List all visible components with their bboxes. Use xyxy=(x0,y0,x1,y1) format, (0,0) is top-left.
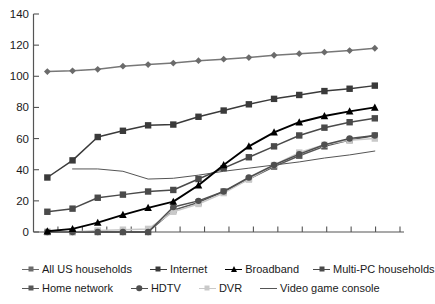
y-tick-label: 40 xyxy=(16,164,29,176)
data-point-marker xyxy=(296,132,302,138)
legend-marker-icon xyxy=(260,283,277,294)
data-point-marker xyxy=(246,154,252,160)
data-point-marker xyxy=(321,49,328,56)
legend-item-video-game-console[interactable]: Video game console xyxy=(260,280,379,296)
data-point-marker xyxy=(271,96,277,102)
data-point-marker xyxy=(95,134,101,140)
data-point-marker xyxy=(195,57,202,64)
legend-marker-icon xyxy=(131,283,148,294)
legend-marker-icon xyxy=(22,264,39,275)
data-point-marker xyxy=(69,205,75,211)
legend-label: Internet xyxy=(170,264,207,275)
data-point-marker xyxy=(95,229,101,235)
y-axis-tick-labels: 020406080100120140 xyxy=(10,8,29,238)
series-hdtv xyxy=(44,132,378,235)
data-point-marker xyxy=(44,209,50,215)
data-point-marker xyxy=(169,198,177,205)
legend-marker-icon xyxy=(22,283,39,294)
y-tick-label: 140 xyxy=(10,8,29,20)
data-point-marker xyxy=(95,195,101,201)
series-home-network xyxy=(44,132,378,235)
legend-item-internet[interactable]: Internet xyxy=(150,261,207,277)
data-point-marker xyxy=(195,198,201,204)
legend-item-home-network[interactable]: Home network xyxy=(22,280,113,296)
data-point-marker xyxy=(120,229,126,235)
data-point-marker xyxy=(120,191,126,197)
y-axis-ticks xyxy=(34,14,40,232)
data-point-marker xyxy=(245,54,252,61)
data-point-marker xyxy=(69,157,75,163)
data-point-marker xyxy=(44,174,50,180)
legend-marker-icon xyxy=(199,283,216,294)
data-point-marker xyxy=(372,132,378,138)
data-point-marker xyxy=(69,67,76,74)
legend-item-dvr[interactable]: DVR xyxy=(199,280,242,296)
data-point-marker xyxy=(195,114,201,120)
legend-label: DVR xyxy=(219,283,242,294)
data-point-marker xyxy=(145,122,151,128)
data-point-marker xyxy=(170,60,177,67)
data-point-marker xyxy=(321,142,327,148)
legend-marker-icon xyxy=(225,264,242,275)
legend-row: All US householdsInternetBroadbandMulti-… xyxy=(14,261,404,277)
data-point-marker xyxy=(321,124,327,130)
data-point-marker xyxy=(170,121,176,127)
data-point-marker xyxy=(170,187,176,193)
data-point-marker xyxy=(321,88,327,94)
legend-item-multi-pc-households[interactable]: Multi-PC households xyxy=(313,261,435,277)
data-point-marker xyxy=(120,128,126,134)
data-point-marker xyxy=(296,92,302,98)
legend-label: All US households xyxy=(42,264,132,275)
data-point-marker xyxy=(220,107,226,113)
data-point-marker xyxy=(372,82,378,88)
series-line xyxy=(47,86,374,178)
y-tick-label: 0 xyxy=(23,226,29,238)
data-point-marker xyxy=(346,135,352,141)
data-point-marker xyxy=(170,204,176,210)
data-point-marker xyxy=(220,188,226,194)
series-layer xyxy=(44,45,379,235)
legend-item-broadband[interactable]: Broadband xyxy=(225,261,299,277)
y-tick-label: 80 xyxy=(16,101,29,113)
y-tick-label: 60 xyxy=(16,133,29,145)
legend-label: Video game console xyxy=(280,283,379,294)
data-point-marker xyxy=(145,61,152,68)
data-point-marker xyxy=(371,45,378,52)
legend-row: Home networkHDTVDVRVideo game console xyxy=(14,280,404,296)
data-point-marker xyxy=(145,188,151,194)
data-point-marker xyxy=(220,56,227,63)
plot-area: 020406080100120140 xyxy=(0,0,414,252)
data-point-marker xyxy=(372,115,378,121)
data-point-marker xyxy=(271,52,278,59)
legend-label: Broadband xyxy=(245,264,299,275)
chart-legend: All US householdsInternetBroadbandMulti-… xyxy=(0,255,414,304)
series-line xyxy=(47,139,374,232)
data-point-marker xyxy=(246,101,252,107)
y-tick-label: 120 xyxy=(10,39,29,51)
data-point-marker xyxy=(296,50,303,57)
legend-label: HDTV xyxy=(151,283,181,294)
legend-item-hdtv[interactable]: HDTV xyxy=(131,280,181,296)
data-point-marker xyxy=(346,47,353,54)
series-multi-pc-households xyxy=(44,115,378,215)
y-tick-label: 20 xyxy=(16,195,29,207)
legend-marker-icon xyxy=(313,264,330,275)
data-point-marker xyxy=(346,119,352,125)
data-point-marker xyxy=(271,143,277,149)
series-line xyxy=(47,135,374,232)
data-point-marker xyxy=(145,229,151,235)
data-point-marker xyxy=(346,86,352,92)
series-dvr xyxy=(44,135,378,235)
data-point-marker xyxy=(120,63,127,70)
legend-item-all-us-households[interactable]: All US households xyxy=(22,261,132,277)
legend-marker-icon xyxy=(150,264,167,275)
plot-svg: 020406080100120140 xyxy=(0,0,414,252)
data-point-marker xyxy=(246,174,252,180)
data-point-marker xyxy=(271,162,277,168)
series-all-us-households xyxy=(44,45,378,75)
legend-label: Home network xyxy=(42,283,113,294)
y-tick-label: 100 xyxy=(10,70,29,82)
series-line xyxy=(47,135,374,232)
legend-label: Multi-PC households xyxy=(333,264,435,275)
x-axis-ticks xyxy=(58,227,400,233)
